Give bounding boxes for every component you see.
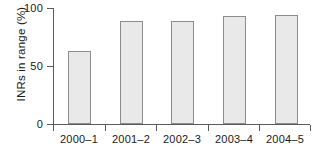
y-tick-label-50: 50 <box>30 61 43 72</box>
x-tick-mark-0 <box>53 125 54 131</box>
y-tick-label-100: 100 <box>24 3 43 14</box>
x-tick-label-2000-1: 2000–1 <box>53 133 105 145</box>
bar-2000-1 <box>68 51 91 124</box>
x-tick-mark-2 <box>156 125 157 131</box>
bar-2002-3 <box>171 21 194 124</box>
bar-chart-figure: INRs in range (%) 100 50 0 2000–1 2001–2… <box>0 0 314 151</box>
y-tick-label-0: 0 <box>37 119 43 130</box>
x-tick-mark-3 <box>208 125 209 131</box>
x-tick-label-2002-3: 2002–3 <box>156 133 208 145</box>
y-axis-line <box>53 8 54 125</box>
plot-area: INRs in range (%) 100 50 0 2000–1 2001–2… <box>0 0 314 151</box>
bar-2003-4 <box>223 16 246 124</box>
x-tick-mark-1 <box>105 125 106 131</box>
y-tick-mark-100 <box>47 8 53 9</box>
x-tick-mark-4 <box>259 125 260 131</box>
bar-2004-5 <box>275 15 298 124</box>
x-axis-line <box>53 124 310 125</box>
y-axis-title: INRs in range (%) <box>15 0 27 114</box>
x-tick-mark-5 <box>310 125 311 131</box>
bar-2001-2 <box>120 21 143 124</box>
y-tick-mark-50 <box>47 66 53 67</box>
x-tick-label-2001-2: 2001–2 <box>105 133 157 145</box>
x-tick-label-2003-4: 2003–4 <box>208 133 260 145</box>
x-tick-label-2004-5: 2004–5 <box>259 133 311 145</box>
